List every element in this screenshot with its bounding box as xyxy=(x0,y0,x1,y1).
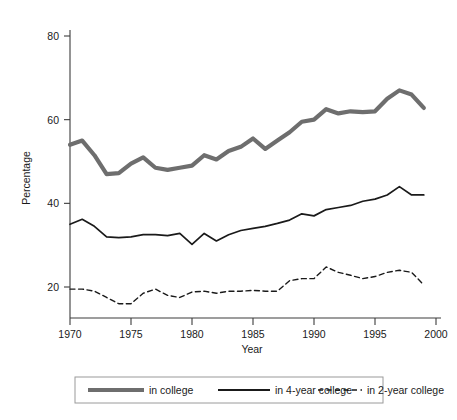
x-tick-label: 2000 xyxy=(424,328,448,340)
series-line-1 xyxy=(70,90,424,174)
x-axis-title: Year xyxy=(241,343,263,355)
y-axis-title: Percentage xyxy=(20,151,32,205)
legend-label: in college xyxy=(149,384,194,396)
x-tick-label: 1970 xyxy=(58,328,82,340)
y-axis-ticks: 20406080 xyxy=(47,30,70,293)
y-tick-label: 40 xyxy=(47,197,59,209)
x-axis-ticks: 1970197519801985199019952000 xyxy=(58,318,448,340)
series-line-2 xyxy=(70,187,424,245)
y-tick-label: 60 xyxy=(47,114,59,126)
x-tick-label: 1990 xyxy=(302,328,326,340)
series-line-3 xyxy=(70,267,424,304)
chart-figure: 20406080 1970197519801985199019952000 Pe… xyxy=(0,0,457,420)
x-tick-label: 1995 xyxy=(363,328,387,340)
legend-label: in 4-year college xyxy=(275,384,352,396)
x-tick-label: 1975 xyxy=(119,328,143,340)
legend-label: in 2-year college xyxy=(367,384,444,396)
x-tick-label: 1980 xyxy=(180,328,204,340)
legend: in collegein 4-year collegein 2-year col… xyxy=(88,384,444,396)
y-tick-label: 20 xyxy=(47,281,59,293)
chart-series-group xyxy=(70,90,424,303)
y-tick-label: 80 xyxy=(47,30,59,42)
line-chart: 20406080 1970197519801985199019952000 Pe… xyxy=(0,0,457,420)
x-tick-label: 1985 xyxy=(241,328,265,340)
